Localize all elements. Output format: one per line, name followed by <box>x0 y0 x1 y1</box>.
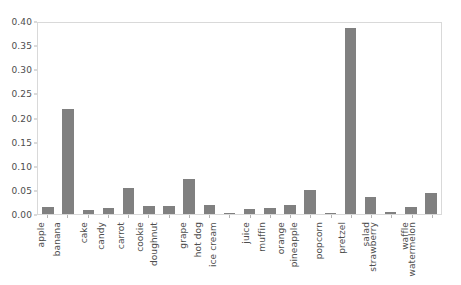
x-axis-tick-mark <box>391 215 392 218</box>
bar <box>224 213 235 214</box>
x-axis-tick-mark <box>432 215 433 218</box>
bar-slot <box>139 23 159 214</box>
x-axis-tick-label: ice cream <box>209 222 219 267</box>
x-axis-tick: watermelon <box>422 216 442 285</box>
bar-slot <box>58 23 78 214</box>
x-axis-tick: banana <box>57 216 77 285</box>
y-axis: 0.000.050.100.150.200.250.300.350.40 <box>0 22 37 215</box>
bar-slot <box>240 23 260 214</box>
bar <box>405 207 416 214</box>
bar-series <box>38 23 441 214</box>
x-axis-tick-label: muffin <box>257 222 267 252</box>
y-axis-tick-label: 0.25 <box>12 89 32 99</box>
x-axis-tick-label: pretzel <box>337 222 347 254</box>
x-axis-tick: cake <box>78 216 98 285</box>
bar <box>304 190 315 214</box>
bar <box>345 28 356 214</box>
y-axis-tick-label: 0.00 <box>12 210 32 220</box>
bar-slot <box>199 23 219 214</box>
bar <box>103 208 114 214</box>
x-axis-tick-label: doughnut <box>149 222 159 266</box>
y-axis-tick-label: 0.15 <box>12 138 32 148</box>
x-axis-tick-label: carrot <box>117 222 127 249</box>
bar <box>284 205 295 214</box>
bar <box>204 205 215 214</box>
bar <box>42 207 53 214</box>
bar-slot <box>421 23 441 214</box>
bar-slot <box>340 23 360 214</box>
bar <box>83 210 94 214</box>
x-axis-tick: pretzel <box>341 216 361 285</box>
plot-area <box>37 22 442 215</box>
x-axis-tick-mark <box>88 215 89 218</box>
x-axis-tick: ice cream <box>219 216 239 285</box>
bar-chart-figure: 0.000.050.100.150.200.250.300.350.40 app… <box>0 0 461 285</box>
x-axis-tick-label: orange <box>276 222 286 254</box>
x-axis-tick-label: watermelon <box>407 222 417 277</box>
x-axis-tick-label: hot dog <box>194 222 204 257</box>
x-axis-tick-mark <box>310 215 311 218</box>
x-axis-tick-label: juice <box>241 222 251 244</box>
bar <box>163 206 174 214</box>
x-axis-tick: strawberry <box>381 216 401 285</box>
bar <box>123 188 134 214</box>
bar-slot <box>38 23 58 214</box>
bar-slot <box>119 23 139 214</box>
x-axis-tick-mark <box>229 215 230 218</box>
x-axis-tick-label: cake <box>79 222 89 243</box>
x-axis-tick-mark <box>47 215 48 218</box>
x-axis-tick-label: grape <box>178 222 188 249</box>
x-axis-tick-label: apple <box>36 222 46 247</box>
bar-slot <box>401 23 421 214</box>
bar-slot <box>320 23 340 214</box>
y-axis-tick-label: 0.35 <box>12 41 32 51</box>
bar-slot <box>361 23 381 214</box>
bar-slot <box>300 23 320 214</box>
bar-slot <box>179 23 199 214</box>
x-axis-tick-label: banana <box>52 222 62 256</box>
bar-slot <box>78 23 98 214</box>
y-axis-tick-label: 0.20 <box>12 114 32 124</box>
x-axis-tick-mark <box>250 215 251 218</box>
x-axis-tick-label: strawberry <box>369 222 379 272</box>
x-axis: applebananacakecandycarrotcookiedoughnut… <box>37 216 442 285</box>
x-axis-tick-mark <box>169 215 170 218</box>
bar <box>325 213 336 214</box>
x-axis-tick-mark <box>108 215 109 218</box>
bar <box>143 206 154 214</box>
bar-slot <box>219 23 239 214</box>
x-axis-tick-mark <box>290 215 291 218</box>
bar-slot <box>381 23 401 214</box>
page-title <box>0 0 461 1</box>
x-axis-tick-label: popcorn <box>314 222 324 259</box>
x-axis-tick-mark <box>148 215 149 218</box>
x-axis-tick-label: candy <box>96 222 106 250</box>
bar-slot <box>98 23 118 214</box>
x-axis-tick-mark <box>189 215 190 218</box>
x-axis-tick-mark <box>331 215 332 218</box>
x-axis-tick-mark <box>67 215 68 218</box>
bar-slot <box>260 23 280 214</box>
bar <box>264 208 275 214</box>
x-axis-tick-mark <box>371 215 372 218</box>
y-axis-tick-label: 0.05 <box>12 186 32 196</box>
x-axis-tick-mark <box>128 215 129 218</box>
x-axis-tick-mark <box>270 215 271 218</box>
bar-slot <box>159 23 179 214</box>
bar <box>385 212 396 214</box>
y-axis-tick-label: 0.30 <box>12 65 32 75</box>
bar-slot <box>280 23 300 214</box>
bar <box>244 209 255 214</box>
bar <box>62 109 73 214</box>
x-axis-tick-mark <box>209 215 210 218</box>
x-axis-tick-mark <box>412 215 413 218</box>
bar <box>183 179 194 214</box>
x-axis-tick: doughnut <box>159 216 179 285</box>
y-axis-tick-label: 0.10 <box>12 162 32 172</box>
x-axis-tick-mark <box>351 215 352 218</box>
bar <box>365 197 376 214</box>
y-axis-tick-label: 0.40 <box>12 17 32 27</box>
x-axis-tick-label: cookie <box>135 222 145 252</box>
x-axis-tick: candy <box>98 216 118 285</box>
x-axis-tick-label: pineapple <box>290 222 300 267</box>
